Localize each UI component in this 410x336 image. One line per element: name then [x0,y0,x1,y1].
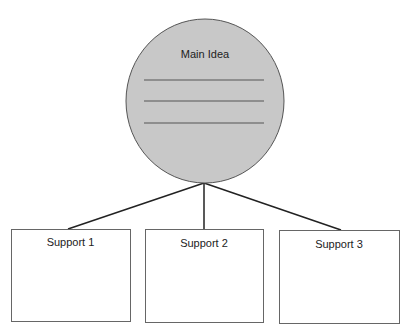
main-idea-label: Main Idea [155,48,255,60]
support-3-label: Support 3 [279,238,399,250]
connector-1 [68,183,204,229]
support-1-label: Support 1 [11,236,130,248]
support-2-label: Support 2 [145,237,263,249]
connector-3 [204,183,341,230]
